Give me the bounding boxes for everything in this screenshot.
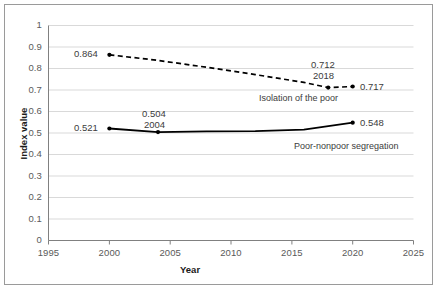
- chart-figure: 1 0.9 0.8 0.7 0.6 0.5 0.4 0.3 0.2 0.1 0 …: [0, 0, 441, 292]
- x-tick-2005: 2005: [150, 247, 190, 258]
- y-axis-title: Index value: [18, 89, 29, 179]
- x-axis-title: Year: [180, 264, 200, 275]
- data-label-0864: 0.864: [74, 48, 98, 59]
- y-tick-0-9: 0.9: [12, 41, 42, 52]
- data-label-0548: 0.548: [360, 117, 384, 128]
- y-tick-0: 0: [12, 234, 42, 245]
- data-label-0521: 0.521: [74, 122, 98, 133]
- data-label-0717: 0.717: [360, 81, 384, 92]
- y-tick-1: 1: [12, 19, 42, 30]
- x-tick-2025: 2025: [394, 247, 434, 258]
- x-tick-2020: 2020: [333, 247, 373, 258]
- series-label-segregation: Poor-nonpoor segregation: [294, 141, 399, 151]
- gridlines: [49, 26, 414, 220]
- data-label-2004: 2004: [144, 119, 165, 130]
- plot-area: 1 0.9 0.8 0.7 0.6 0.5 0.4 0.3 0.2 0.1 0 …: [0, 0, 441, 292]
- data-label-0504: 0.504: [142, 108, 166, 119]
- data-label-2018: 2018: [313, 70, 334, 81]
- x-tick-2010: 2010: [211, 247, 251, 258]
- series-label-isolation: Isolation of the poor: [259, 93, 338, 103]
- y-tick-0-8: 0.8: [12, 62, 42, 73]
- y-tick-0-2: 0.2: [12, 191, 42, 202]
- x-tick-2015: 2015: [272, 247, 312, 258]
- data-label-0712: 0.712: [311, 59, 335, 70]
- x-tick-1995: 1995: [29, 247, 69, 258]
- x-tick-2000: 2000: [89, 247, 129, 258]
- x-tick-marks: [49, 241, 414, 245]
- y-tick-0-1: 0.1: [12, 213, 42, 224]
